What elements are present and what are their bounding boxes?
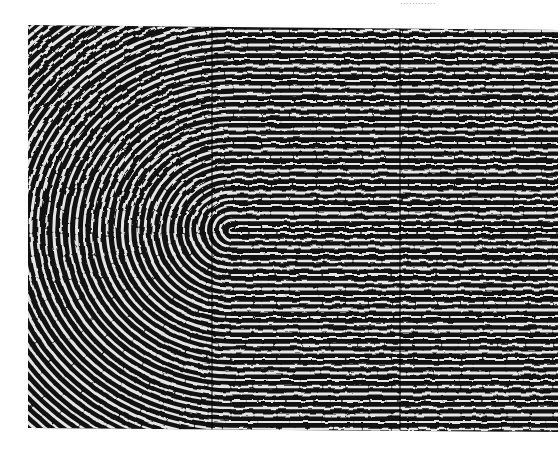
fingerprint-image [0,0,560,457]
